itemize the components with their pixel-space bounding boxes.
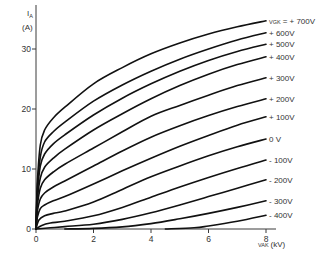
curve-vgk-minus400V bbox=[165, 215, 266, 229]
curve-vgk-plus400V bbox=[36, 57, 266, 229]
curve-label: - 100V bbox=[269, 156, 293, 165]
curve-label: VGK= + 700V bbox=[269, 17, 316, 26]
curve-label: + 500V bbox=[269, 40, 295, 49]
curve-label: + 200V bbox=[269, 95, 295, 104]
x-tick-label: 4 bbox=[149, 234, 154, 244]
y-axis-unit: (A) bbox=[22, 23, 33, 32]
curve-label: + 100V bbox=[269, 113, 295, 122]
curve-label: - 200V bbox=[269, 176, 293, 185]
y-tick-label: 20 bbox=[22, 104, 32, 114]
curve-label: - 400V bbox=[269, 211, 293, 220]
curve-labels: VGK= + 700V+ 600V+ 500V+ 400V+ 300V+ 200… bbox=[269, 17, 316, 220]
curves bbox=[36, 21, 266, 229]
curve-label: - 300V bbox=[269, 197, 293, 206]
x-tick-label: 0 bbox=[34, 234, 39, 244]
x-tick-label: 6 bbox=[206, 234, 211, 244]
anode-characteristics-chart: 024680102030 VGK= + 700V+ 600V+ 500V+ 40… bbox=[0, 0, 324, 265]
y-tick-label: 0 bbox=[26, 224, 31, 234]
curve-label: 0 V bbox=[269, 135, 282, 144]
y-tick-label: 30 bbox=[22, 44, 32, 54]
curve-vgk-0V bbox=[36, 139, 266, 229]
y-axis-title: IA bbox=[27, 9, 33, 19]
x-tick-label: 2 bbox=[91, 234, 96, 244]
x-axis-title: VAK(kV) bbox=[258, 240, 286, 249]
y-tick-label: 10 bbox=[22, 164, 32, 174]
curve-vgk-plus300V bbox=[36, 78, 266, 229]
curve-label: + 400V bbox=[269, 53, 295, 62]
curve-label: + 300V bbox=[269, 74, 295, 83]
curve-label: + 600V bbox=[269, 29, 295, 38]
